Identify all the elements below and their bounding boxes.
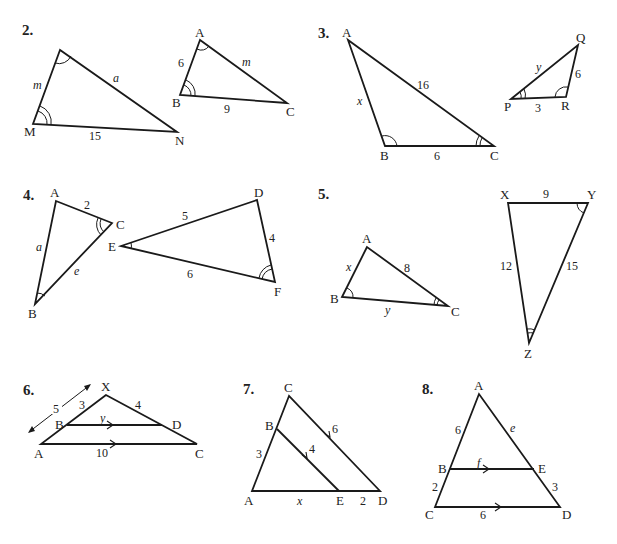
vertex-label: C bbox=[116, 217, 125, 232]
vertex-label: M bbox=[24, 124, 36, 139]
problem-5: 5. x 8 y A B C 9 12 15 X Y Z bbox=[318, 186, 597, 361]
side-label: y bbox=[384, 303, 391, 317]
side-label: f bbox=[477, 456, 482, 470]
triangle-outline bbox=[348, 40, 494, 146]
side-label: 6 bbox=[187, 267, 193, 281]
vertex-label: E bbox=[336, 493, 344, 508]
triangle-outline bbox=[511, 45, 578, 99]
angle-mark-double bbox=[259, 265, 271, 278]
side-label: 4 bbox=[135, 398, 141, 412]
side-label: 10 bbox=[96, 446, 108, 460]
side-label: y bbox=[99, 411, 106, 425]
side-label: 6 bbox=[480, 508, 486, 522]
triangle-m-a-15: m a 15 M N bbox=[24, 50, 185, 148]
vertex-label: D bbox=[254, 185, 263, 200]
side-label: 15 bbox=[89, 129, 101, 143]
vertex-label: D bbox=[562, 507, 571, 522]
worksheet-canvas: 2. m a 15 M N 6 m 9 A B C 3. bbox=[0, 0, 617, 544]
vertex-label: F bbox=[274, 284, 281, 299]
vertex-label: A bbox=[342, 25, 352, 40]
vertex-label: A bbox=[34, 446, 44, 461]
angle-mark-double bbox=[100, 219, 104, 232]
vertex-label: A bbox=[50, 185, 60, 200]
vertex-label: C bbox=[425, 507, 434, 522]
angle-mark-double bbox=[40, 106, 51, 125]
angle-mark-single bbox=[577, 203, 584, 213]
angle-mark-double bbox=[527, 329, 535, 330]
vertex-label: B bbox=[28, 306, 37, 321]
problem-6: 6. 5 3 4 y 10 X B D A C bbox=[23, 379, 204, 461]
side-label: 12 bbox=[500, 259, 512, 273]
side-label: 6 bbox=[575, 67, 581, 81]
triangle-abc: x 8 y A B C bbox=[330, 231, 460, 319]
problem-number: 3. bbox=[318, 25, 330, 41]
angle-mark-single bbox=[197, 46, 209, 50]
side-label: x bbox=[345, 260, 352, 274]
triangle-xyz: 9 12 15 X Y Z bbox=[500, 187, 597, 361]
vertex-label: B bbox=[380, 148, 389, 163]
problem-2: 2. m a 15 M N 6 m 9 A B C bbox=[22, 22, 295, 148]
problem-number: 7. bbox=[243, 381, 255, 397]
problem-number: 5. bbox=[318, 186, 330, 202]
problem-3: 3. x 16 6 A B C y 6 3 P Q R bbox=[318, 25, 586, 163]
vertex-label: Q bbox=[576, 30, 586, 45]
problem-8: 8. 6 2 e 3 f 6 A B E C D bbox=[422, 378, 571, 522]
angle-mark-double bbox=[480, 138, 482, 146]
triangle-pqr: y 6 3 P Q R bbox=[504, 30, 586, 115]
vertex-label: R bbox=[561, 98, 570, 113]
side-label: 6 bbox=[455, 423, 461, 437]
vertex-label: C bbox=[490, 148, 499, 163]
side-label: 2 bbox=[360, 494, 366, 508]
triangle-outline bbox=[35, 201, 112, 304]
side-label: 3 bbox=[552, 480, 558, 494]
side-label: 6 bbox=[332, 422, 338, 436]
vertex-label: B bbox=[438, 461, 447, 476]
side-label: a bbox=[36, 240, 42, 254]
side-label: e bbox=[74, 264, 80, 278]
vertex-label: E bbox=[108, 239, 116, 254]
vertex-label: B bbox=[172, 95, 181, 110]
angle-mark-single bbox=[347, 288, 353, 298]
side-label: 4 bbox=[269, 231, 275, 245]
vertex-label: Y bbox=[587, 187, 597, 202]
vertex-label: D bbox=[172, 417, 181, 432]
problem-4: 4. 2 a e A B C 5 4 6 D E F bbox=[23, 185, 281, 321]
vertex-label: C bbox=[195, 446, 204, 461]
angle-mark-double bbox=[184, 85, 191, 96]
side-label: 15 bbox=[566, 259, 578, 273]
side-label: x bbox=[356, 94, 363, 108]
vertex-label: X bbox=[101, 379, 111, 394]
side-label: 9 bbox=[224, 102, 230, 116]
vertex-label: D bbox=[378, 493, 387, 508]
side-label: 8 bbox=[404, 261, 410, 275]
triangle-def: 5 4 6 D E F bbox=[108, 185, 281, 299]
side-label: 6 bbox=[178, 56, 184, 70]
vertex-label: C bbox=[284, 380, 293, 395]
triangle-outline bbox=[121, 200, 275, 282]
side-label: 5 bbox=[53, 402, 59, 416]
vertex-label: A bbox=[362, 231, 372, 246]
side-label: 2 bbox=[84, 198, 90, 212]
problem-number: 2. bbox=[22, 22, 34, 38]
vertex-label: B bbox=[55, 417, 64, 432]
side-label: m bbox=[33, 78, 42, 92]
side-label: 6 bbox=[434, 149, 440, 163]
vertex-label: N bbox=[175, 133, 185, 148]
vertex-label: C bbox=[451, 304, 460, 319]
angle-mark-double bbox=[434, 298, 436, 305]
triangle-outline bbox=[33, 50, 177, 132]
triangle-outline bbox=[435, 394, 560, 507]
arrowhead-icon bbox=[84, 384, 91, 391]
vertex-label: A bbox=[244, 493, 254, 508]
problem-number: 6. bbox=[23, 382, 35, 398]
parallel-arrow-icon bbox=[302, 452, 307, 458]
side-label: a bbox=[113, 71, 119, 85]
angle-mark-double bbox=[38, 111, 47, 125]
parallel-arrow-icon bbox=[325, 431, 330, 437]
side-label: 2 bbox=[432, 480, 438, 494]
side-label: 5 bbox=[182, 209, 188, 223]
vertex-label: B bbox=[330, 291, 339, 306]
vertex-label: Z bbox=[524, 346, 532, 361]
problem-number: 8. bbox=[422, 381, 434, 397]
side-label: e bbox=[510, 421, 516, 435]
